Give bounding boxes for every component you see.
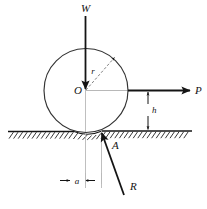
contact-point-label: A [111,139,119,151]
radius-label: r [91,66,95,76]
ground-surface [8,131,192,140]
reaction-force-label: R [129,180,137,192]
ground-hatching [9,132,188,140]
applied-force-label: P [194,84,202,96]
center-label: O [74,84,82,96]
offset-dimension [60,173,102,188]
mechanics-figure: W P r O R A h a [0,0,207,209]
figure-canvas: W P r O R A h a [0,0,207,209]
height-label: h [152,105,157,115]
weight-label: W [81,2,91,14]
offset-label: a [75,176,80,186]
